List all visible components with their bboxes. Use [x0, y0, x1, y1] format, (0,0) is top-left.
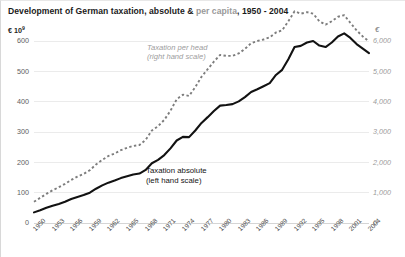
chart-container: Development of German taxation, absolute… — [1, 1, 405, 257]
left-axis-tick-label: 400 — [1, 98, 29, 105]
right-axis-tick-label: 5,000 — [373, 68, 403, 75]
left-axis-unit-exponent: 9 — [22, 25, 25, 31]
chart-title: Development of German taxation, absolute… — [8, 6, 288, 16]
right-axis-tick-label: 4,000 — [373, 98, 403, 105]
right-axis-unit-label: € — [375, 25, 379, 34]
chart-title-part2: , 1950 - 2004 — [237, 6, 288, 16]
annotation-absolute-line2: (left hand scale) — [146, 176, 207, 186]
annotation-per-head-line2: (right hand scale) — [147, 52, 208, 61]
right-axis-tick-label: 2,000 — [373, 159, 403, 166]
left-axis-unit-base: € 10 — [8, 26, 22, 35]
chart-title-part1: Development of German taxation, absolute… — [8, 6, 196, 16]
left-axis-tick-label: 0 — [1, 219, 29, 226]
annotation-per-head: Taxation per head (right hand scale) — [147, 43, 208, 62]
left-axis-tick-label: 500 — [1, 68, 29, 75]
left-axis-tick-label: 600 — [1, 37, 29, 44]
left-axis-tick-label: 300 — [1, 128, 29, 135]
annotation-absolute-line1: Taxation absolute — [146, 166, 207, 176]
left-axis-unit-label: € 109 — [8, 25, 25, 35]
left-axis-tick-label: 200 — [1, 159, 29, 166]
right-axis-tick-label: 3,000 — [373, 128, 403, 135]
right-axis-tick-label: 6,000 — [373, 37, 403, 44]
left-axis-tick-label: 100 — [1, 189, 29, 196]
annotation-absolute: Taxation absolute (left hand scale) — [146, 166, 207, 185]
annotation-per-head-line1: Taxation per head — [147, 43, 208, 52]
right-axis-tick-label: 1,000 — [373, 189, 403, 196]
chart-title-muted: per capita — [196, 6, 237, 16]
